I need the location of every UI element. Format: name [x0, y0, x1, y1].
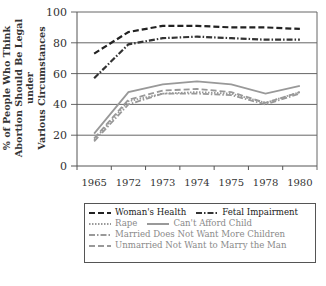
legend-row: Rape Can't Afford Child: [89, 218, 311, 229]
legend-label: Fetal Impairment: [222, 207, 298, 218]
y-tick-label: 40: [53, 98, 67, 111]
dotted-line-swatch-icon: [89, 221, 111, 227]
line-chart: 0204060801001965197219731974197519781980: [0, 0, 326, 200]
legend-item-womans-health: Woman's Health: [89, 207, 186, 218]
legend-item-unmarried-not-marry: Unmarried Not Want to Marry the Man: [89, 240, 287, 251]
y-tick-label: 20: [53, 129, 67, 142]
series-line: [94, 94, 300, 142]
y-tick-label: 0: [60, 160, 67, 173]
x-tick-label: 1973: [150, 177, 175, 188]
legend-label: Married Does Not Want More Children: [115, 229, 285, 240]
legend-item-fetal-impairment: Fetal Impairment: [196, 207, 298, 218]
x-tick-label: 1972: [116, 177, 141, 188]
x-tick-label: 1978: [253, 177, 278, 188]
dash-dot-line-swatch-icon: [89, 232, 111, 238]
legend-item-married-no-more-children: Married Does Not Want More Children: [89, 229, 285, 240]
legend-label: Can't Afford Child: [173, 218, 252, 229]
legend-item-cant-afford-child: Can't Afford Child: [147, 218, 252, 229]
y-tick-label: 80: [53, 37, 67, 50]
legend-label: Rape: [115, 218, 137, 229]
legend-row: Unmarried Not Want to Marry the Man: [89, 240, 311, 251]
solid-line-swatch-icon: [147, 221, 169, 227]
x-tick-label: 1965: [81, 177, 106, 188]
dashed-line-swatch-icon: [89, 243, 111, 249]
dashed-line-swatch-icon: [89, 210, 111, 216]
legend-label: Unmarried Not Want to Marry the Man: [115, 240, 287, 251]
x-tick-label: 1980: [287, 177, 312, 188]
legend: Woman's Health Fetal Impairment Rape Can…: [84, 203, 316, 263]
legend-row: Woman's Health Fetal Impairment: [89, 207, 311, 218]
series-line: [94, 92, 300, 140]
dash-dot-line-swatch-icon: [196, 210, 218, 216]
axis-ticks: 0204060801001965197219731974197519781980: [46, 6, 313, 188]
x-tick-label: 1975: [219, 177, 244, 188]
x-tick-label: 1974: [184, 177, 209, 188]
legend-label: Woman's Health: [115, 207, 186, 218]
legend-row: Married Does Not Want More Children: [89, 229, 311, 240]
y-tick-label: 100: [46, 6, 67, 19]
y-tick-label: 60: [53, 68, 67, 81]
legend-item-rape: Rape: [89, 218, 137, 229]
